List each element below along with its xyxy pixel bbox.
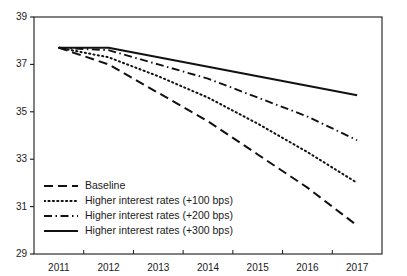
dotted-line-icon: [44, 196, 78, 206]
series-line-3: [59, 48, 357, 140]
legend-item[interactable]: Baseline: [44, 178, 233, 193]
dashed-line-icon: [44, 181, 78, 191]
legend-item[interactable]: Higher interest rates (+200 bps): [44, 208, 233, 223]
line-chart: 293133353739 201120122013201420152016201…: [0, 0, 407, 276]
solid-line-icon: [44, 226, 78, 236]
legend-item-label: Baseline: [85, 180, 125, 191]
legend-item[interactable]: Higher interest rates (+300 bps): [44, 223, 233, 238]
legend-item-label: Higher interest rates (+300 bps): [85, 225, 233, 236]
chart-legend: BaselineHigher interest rates (+100 bps)…: [44, 178, 233, 238]
legend-item[interactable]: Higher interest rates (+100 bps): [44, 193, 233, 208]
series-line-4: [59, 48, 357, 95]
legend-item-label: Higher interest rates (+200 bps): [85, 210, 233, 221]
dash-dot-line-icon: [44, 211, 78, 221]
legend-item-label: Higher interest rates (+100 bps): [85, 195, 233, 206]
series-line-2: [59, 48, 357, 183]
